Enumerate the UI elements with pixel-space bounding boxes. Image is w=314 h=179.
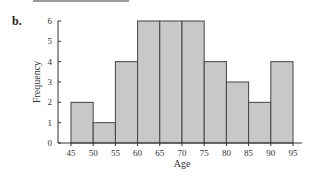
x-axis: 4550556065707580859095 <box>58 143 302 158</box>
y-axis: 0123456 <box>48 16 62 148</box>
x-tick-label: 75 <box>200 148 210 158</box>
histogram-bar <box>138 21 160 143</box>
y-tick-label: 0 <box>48 138 53 148</box>
y-tick-label: 1 <box>48 118 53 128</box>
y-tick-label: 2 <box>48 97 53 107</box>
x-tick-label: 65 <box>155 148 165 158</box>
histogram-bar <box>71 102 93 143</box>
x-tick-label: 95 <box>289 148 299 158</box>
x-tick-label: 50 <box>89 148 99 158</box>
x-axis-title: Age <box>174 158 191 169</box>
x-tick-label: 55 <box>111 148 121 158</box>
bars-group <box>71 21 293 143</box>
histogram-bar <box>204 62 226 143</box>
x-tick-label: 90 <box>266 148 276 158</box>
histogram-bar <box>182 21 204 143</box>
y-tick-label: 4 <box>48 57 53 67</box>
histogram-bar <box>160 21 182 143</box>
y-tick-label: 3 <box>48 77 53 87</box>
histogram-bar <box>115 62 137 143</box>
histogram-bar <box>271 62 293 143</box>
x-tick-label: 80 <box>222 148 232 158</box>
x-tick-label: 85 <box>244 148 254 158</box>
x-tick-label: 45 <box>67 148 77 158</box>
histogram-chart: 0123456 4550556065707580859095 Age Frequ… <box>0 0 314 179</box>
histogram-bar <box>226 82 248 143</box>
y-tick-label: 6 <box>48 16 53 26</box>
y-tick-label: 5 <box>48 36 53 46</box>
histogram-bar <box>93 123 115 143</box>
y-axis-title: Frequency <box>31 61 42 103</box>
x-tick-label: 70 <box>178 148 188 158</box>
x-tick-label: 60 <box>133 148 143 158</box>
histogram-bar <box>249 102 271 143</box>
